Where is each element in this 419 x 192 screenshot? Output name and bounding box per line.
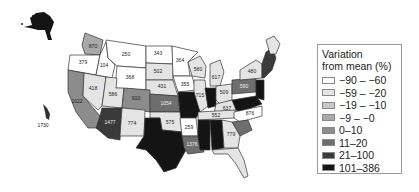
legend-item: −9 – −0 [322,112,397,125]
svg-text:715: 715 [196,92,205,98]
legend-title-line2: from mean (%) [322,60,397,72]
legend-title-line1: Variation [322,48,397,60]
legend-item: 21–100 [322,149,397,162]
svg-text:502: 502 [154,68,163,74]
svg-text:552: 552 [212,112,221,118]
svg-text:1376: 1376 [186,141,197,147]
svg-text:379: 379 [79,59,88,65]
legend-item: 101–386 [322,162,397,175]
svg-text:870: 870 [89,43,98,49]
legend-item: 0–10 [322,124,397,137]
legend-swatch [322,89,335,96]
state-fl [212,148,248,178]
legend-swatch [322,152,335,159]
svg-text:900: 900 [132,95,141,101]
state-alaska [24,12,54,40]
legend-item: −19 – −10 [322,99,397,112]
legend-swatch [322,77,335,84]
svg-text:876: 876 [246,110,255,116]
svg-text:250: 250 [122,51,131,57]
legend-swatch [322,164,335,171]
legend-item: 11–20 [322,137,397,150]
legend-swatch [322,139,335,146]
svg-text:355: 355 [181,81,190,87]
svg-text:1477: 1477 [104,119,115,125]
legend: Variation from mean (%) −90 – −60 −59 – … [317,44,402,174]
state-al [210,120,224,150]
svg-text:1054: 1054 [160,100,171,106]
svg-text:590: 590 [240,83,249,89]
svg-text:343: 343 [154,50,163,56]
svg-text:480: 480 [248,68,257,74]
svg-text:779: 779 [227,131,236,137]
state-hawaii [43,104,50,120]
svg-text:1022: 1022 [71,98,82,104]
svg-text:368: 368 [126,74,135,80]
label-hi: 1730 [37,122,48,128]
svg-text:259: 259 [185,124,194,130]
state-mi [210,60,224,86]
svg-text:617: 617 [212,74,221,80]
svg-text:104: 104 [100,62,109,68]
state-ms [198,120,210,150]
legend-item: −90 – −60 [322,74,397,87]
svg-text:774: 774 [128,120,137,126]
legend-swatch [322,102,335,109]
choropleth-map: 1730 870 379 104 250 368 343 502 431 364… [0,0,300,192]
state-nj-md [256,80,264,100]
us-map: 1730 870 379 104 250 368 343 502 431 364… [0,0,300,192]
svg-text:364: 364 [176,57,185,63]
legend-swatch [322,114,335,121]
svg-text:586: 586 [109,91,118,97]
svg-text:575: 575 [166,119,175,125]
svg-text:509: 509 [220,89,229,95]
svg-text:418: 418 [89,85,98,91]
legend-swatch [322,127,335,134]
svg-text:580: 580 [194,66,203,72]
legend-item: −59 – −20 [322,87,397,100]
svg-text:431: 431 [158,83,167,89]
